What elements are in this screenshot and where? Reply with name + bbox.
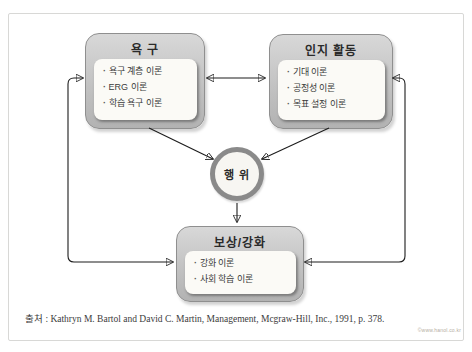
needs-title: 욕 구 [86, 40, 204, 57]
cognition-node: 인지 활동 기대 이론 공정성 이론 목표 설정 이론 [269, 34, 393, 129]
reward-node: 보상/강화 강화 이론 사회 학습 이론 [176, 226, 304, 302]
list-item: 목표 설정 이론 [287, 96, 385, 112]
list-item: 욕구 계층 이론 [103, 63, 197, 79]
list-item: 학습 욕구 이론 [103, 95, 197, 111]
list-item: 사회 학습 이론 [194, 271, 296, 287]
needs-node: 욕 구 욕구 계층 이론 ERG 이론 학습 욕구 이론 [85, 33, 205, 129]
behavior-node: 행 위 [210, 147, 264, 201]
list-item: ERG 이론 [103, 79, 197, 95]
reward-panel: 강화 이론 사회 학습 이론 [185, 251, 296, 294]
list-item: 공정성 이론 [287, 80, 385, 96]
needs-panel: 욕구 계층 이론 ERG 이론 학습 욕구 이론 [94, 59, 197, 120]
cognition-panel: 기대 이론 공정성 이론 목표 설정 이론 [278, 60, 385, 120]
reward-title: 보상/강화 [177, 233, 303, 250]
diagram-stage: 욕 구 욕구 계층 이론 ERG 이론 학습 욕구 이론 인지 활동 기대 이론… [0, 0, 472, 352]
behavior-title: 행 위 [224, 166, 250, 182]
cognition-title: 인지 활동 [270, 41, 392, 58]
list-item: 강화 이론 [194, 255, 296, 271]
watermark-text: ©www.hanol.co.kr [418, 327, 461, 333]
source-caption: 출처 : Kathryn M. Bartol and David C. Mart… [25, 311, 425, 325]
list-item: 기대 이론 [287, 64, 385, 80]
